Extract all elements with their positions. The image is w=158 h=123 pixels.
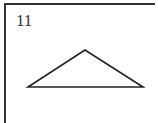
triangle-figure bbox=[0, 0, 158, 123]
triangle-shape bbox=[28, 50, 143, 87]
